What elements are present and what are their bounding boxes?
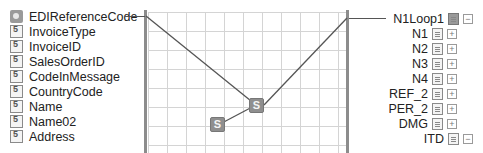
target-node-label: N2: [412, 42, 428, 56]
source-field-label: InvoiceID: [29, 40, 81, 54]
source-field[interactable]: Name02: [10, 114, 76, 129]
key-field-icon: [10, 10, 23, 23]
target-schema-splitter[interactable]: [346, 10, 349, 153]
target-node[interactable]: DMG+: [399, 116, 457, 131]
expand-icon[interactable]: +: [447, 104, 457, 114]
target-node-label: ITD: [424, 132, 444, 146]
field-icon: [10, 25, 23, 38]
source-field[interactable]: InvoiceType: [10, 24, 96, 39]
source-field-label: EDIReferenceCode: [29, 10, 137, 24]
source-field-label: Address: [29, 130, 75, 144]
source-field-label: CodeInMessage: [29, 70, 120, 84]
collapse-icon[interactable]: −: [463, 134, 473, 144]
record-icon: [432, 73, 443, 85]
target-node[interactable]: N3+: [412, 56, 457, 71]
target-node[interactable]: N2+: [412, 41, 457, 56]
expand-icon[interactable]: +: [447, 59, 457, 69]
expand-icon[interactable]: +: [447, 44, 457, 54]
field-icon: [10, 40, 23, 53]
expand-icon[interactable]: +: [447, 29, 457, 39]
source-field[interactable]: CountryCode: [10, 84, 103, 99]
field-icon: [10, 115, 23, 128]
target-node-label: N4: [412, 72, 428, 86]
target-node[interactable]: REF_2+: [389, 86, 457, 101]
source-schema-splitter[interactable]: [144, 10, 147, 153]
expand-icon[interactable]: +: [447, 119, 457, 129]
target-node[interactable]: ITD−: [424, 131, 473, 146]
source-field[interactable]: Address: [10, 129, 75, 144]
field-icon: [10, 85, 23, 98]
target-node[interactable]: N1Loop1−: [393, 11, 473, 26]
target-node[interactable]: PER_2+: [388, 101, 457, 116]
loop-record-icon: [448, 13, 459, 25]
string-functoid-1[interactable]: S: [249, 98, 264, 113]
target-node-label: PER_2: [388, 102, 428, 116]
target-node-label: REF_2: [389, 87, 428, 101]
target-node-label: N1: [412, 27, 428, 41]
source-field[interactable]: InvoiceID: [10, 39, 81, 54]
field-icon: [10, 55, 23, 68]
link-stem: [349, 18, 386, 19]
expand-icon[interactable]: +: [447, 74, 457, 84]
record-icon: [432, 118, 443, 130]
string-functoid-2[interactable]: S: [210, 117, 225, 132]
collapse-icon[interactable]: −: [463, 14, 473, 24]
target-node[interactable]: N4+: [412, 71, 457, 86]
record-icon: [448, 133, 459, 145]
source-field-label: Name: [29, 100, 62, 114]
source-field[interactable]: SalesOrderID: [10, 54, 105, 69]
source-field-label: CountryCode: [29, 85, 103, 99]
field-icon: [10, 100, 23, 113]
field-icon: [10, 130, 23, 143]
source-field[interactable]: EDIReferenceCode: [10, 9, 137, 24]
record-icon: [432, 28, 443, 40]
source-field-label: InvoiceType: [29, 25, 96, 39]
target-node-label: N3: [412, 57, 428, 71]
mapping-grid[interactable]: [148, 12, 346, 153]
target-node[interactable]: N1+: [412, 26, 457, 41]
record-icon: [432, 103, 443, 115]
record-icon: [432, 58, 443, 70]
target-node-label: N1Loop1: [393, 12, 444, 26]
link-stem: [125, 16, 145, 17]
source-field-label: Name02: [29, 115, 76, 129]
record-icon: [432, 88, 443, 100]
source-field[interactable]: Name: [10, 99, 62, 114]
source-field-label: SalesOrderID: [29, 55, 105, 69]
expand-icon[interactable]: +: [447, 89, 457, 99]
field-icon: [10, 70, 23, 83]
target-node-label: DMG: [399, 117, 428, 131]
source-field[interactable]: CodeInMessage: [10, 69, 120, 84]
record-icon: [432, 43, 443, 55]
